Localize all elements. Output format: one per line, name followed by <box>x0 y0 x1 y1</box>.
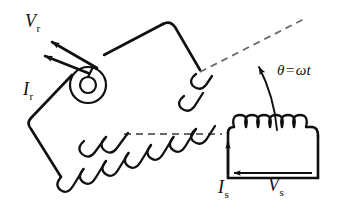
stator-coil <box>228 115 318 178</box>
stator-current-label: Is <box>218 178 229 200</box>
stator-current-subscript: s <box>225 188 229 200</box>
rotor-current-symbol: I <box>23 79 29 99</box>
stator-voltage-label: Vs <box>268 176 284 198</box>
rotor-current-label: Ir <box>23 80 33 102</box>
stator-voltage-subscript: s <box>280 186 284 198</box>
stator-current-symbol: I <box>218 177 224 197</box>
time-symbol: t <box>306 62 310 78</box>
theta-symbol: θ <box>277 62 284 78</box>
rotor-voltage-subscript: r <box>37 22 41 34</box>
diagram-canvas <box>0 0 343 211</box>
rotor-voltage-symbol: V <box>25 11 36 31</box>
rotor-coil <box>29 23 216 192</box>
stator-voltage-symbol: V <box>268 175 279 195</box>
rotor-voltage-label: Vr <box>25 12 40 34</box>
rotor-winding-turns-upper <box>79 133 128 157</box>
rotor-winding-turns <box>57 129 196 192</box>
stator-voltage-arrow <box>228 166 312 175</box>
machine-diagram: Vr Ir Is Vs θ=ωt <box>0 0 343 211</box>
stator-winding-turns <box>233 115 312 127</box>
equals-symbol: = <box>286 62 294 78</box>
omega-symbol: ω <box>296 62 307 78</box>
rotation-angle-label: θ=ωt <box>277 63 311 78</box>
angle-arc <box>259 67 277 130</box>
rotor-current-subscript: r <box>30 90 34 102</box>
